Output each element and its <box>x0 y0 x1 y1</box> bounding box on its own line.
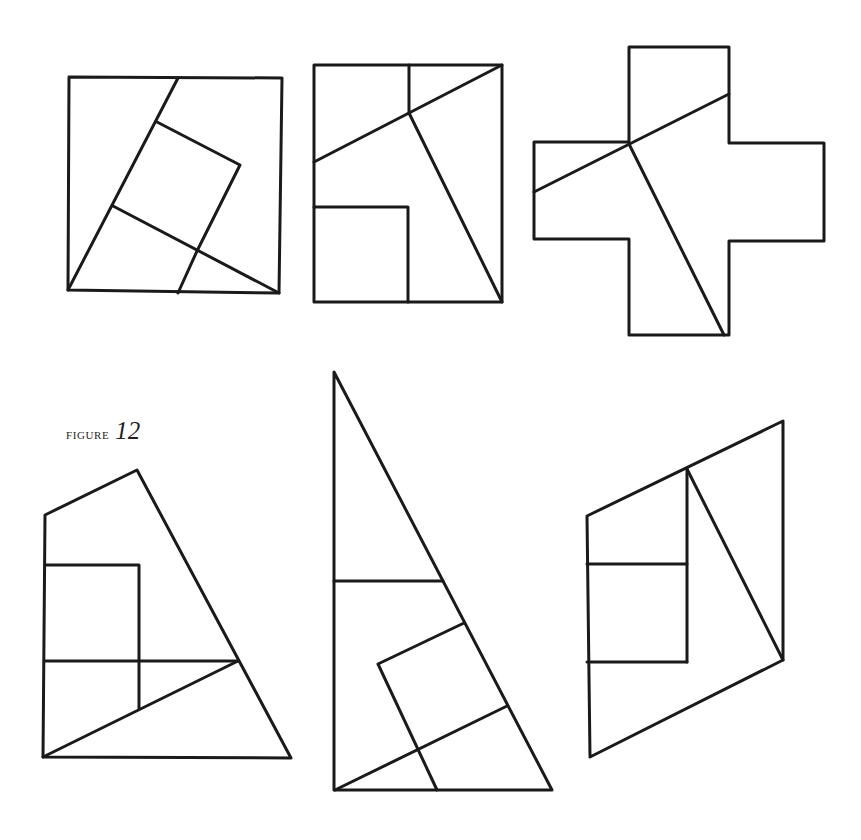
parallelogram-dissection-line-4 <box>687 469 783 660</box>
cross-dissection-line-0 <box>534 47 824 335</box>
triangle-dissection-figure <box>334 372 552 790</box>
figure-caption-number: 12 <box>115 417 140 444</box>
parallelogram-dissection-line-0 <box>587 421 783 757</box>
square-dissection-line-1 <box>68 78 178 290</box>
cross-dissection-figure <box>534 47 824 335</box>
rectangle-dissection-line-4 <box>314 207 408 302</box>
figure-caption-word: FIGURE <box>66 426 109 442</box>
pentagon-dissection-line-1 <box>45 565 139 708</box>
square-dissection-figure <box>68 77 282 293</box>
square-dissection-line-0 <box>68 77 282 293</box>
rectangle-dissection-figure <box>314 65 502 302</box>
pentagon-dissection-line-0 <box>43 470 291 758</box>
pentagon-dissection-figure <box>43 470 291 758</box>
rectangle-dissection-line-3 <box>409 113 502 302</box>
triangle-dissection-line-3 <box>335 706 507 790</box>
figure-caption: FIGURE12 <box>66 417 140 445</box>
parallelogram-dissection-figure <box>587 421 783 757</box>
triangle-dissection-line-2 <box>378 623 464 790</box>
square-dissection-line-3 <box>113 206 279 293</box>
cross-dissection-line-2 <box>629 144 724 335</box>
